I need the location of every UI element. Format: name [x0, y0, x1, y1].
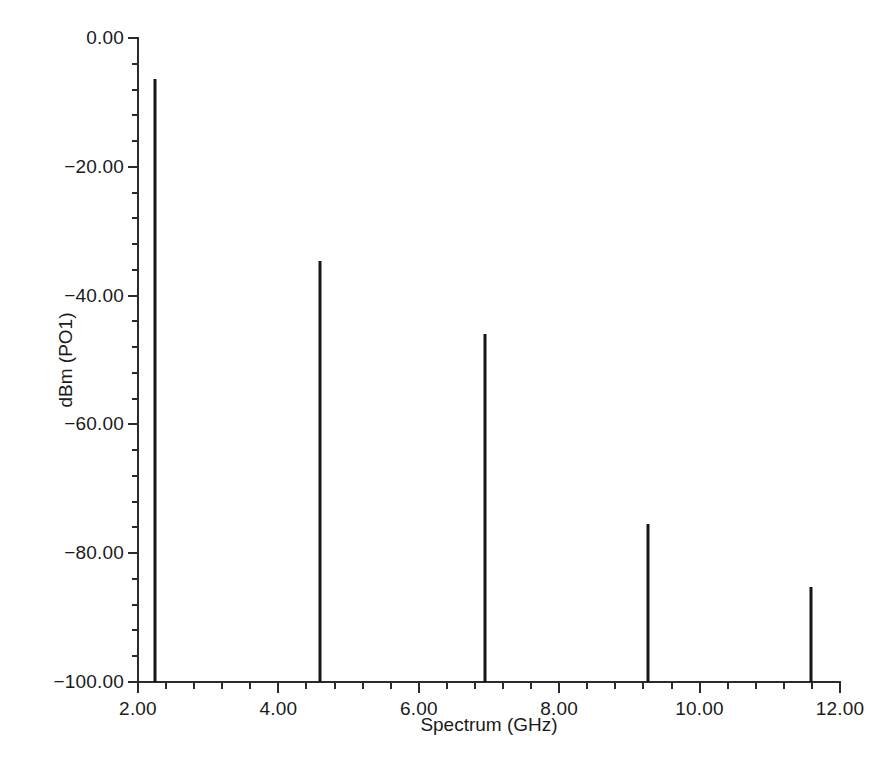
x-tick-major [137, 682, 139, 693]
y-tick-label: −100.00 [53, 671, 124, 693]
x-tick-major [699, 682, 701, 693]
y-tick-minor [132, 449, 138, 451]
y-tick-minor [132, 192, 138, 194]
x-tick-minor [530, 682, 532, 689]
y-axis-title: dBm (PO1) [55, 312, 77, 407]
x-tick-minor [671, 682, 673, 689]
x-tick-minor [305, 682, 307, 689]
x-tick-minor [811, 682, 813, 689]
y-tick-minor [132, 243, 138, 245]
y-tick-minor [132, 89, 138, 91]
y-tick-major [128, 37, 138, 39]
y-tick-minor [132, 398, 138, 400]
x-axis-title: Spectrum (GHz) [138, 714, 840, 736]
spectrum-plot-figure: 0.00−20.00−40.00−60.00−80.00−100.00 2.00… [0, 0, 893, 766]
spectrum-peak [483, 334, 486, 682]
x-tick-minor [362, 682, 364, 689]
x-tick-major [418, 682, 420, 693]
x-tick-minor [221, 682, 223, 689]
y-tick-minor [132, 372, 138, 374]
y-tick-minor [132, 526, 138, 528]
plot-area: 0.00−20.00−40.00−60.00−80.00−100.00 [138, 38, 840, 682]
y-tick-minor [132, 346, 138, 348]
x-tick-minor [474, 682, 476, 689]
x-tick-major [277, 682, 279, 693]
y-tick-label: −60.00 [64, 413, 124, 435]
x-tick-minor [783, 682, 785, 689]
y-tick-major [128, 552, 138, 554]
x-tick-minor [642, 682, 644, 689]
x-tick-minor [755, 682, 757, 689]
y-tick-minor [132, 140, 138, 142]
x-tick-minor [165, 682, 167, 689]
spectrum-peak [318, 261, 321, 682]
y-tick-minor [132, 604, 138, 606]
y-tick-minor [132, 578, 138, 580]
x-tick-minor [249, 682, 251, 689]
x-tick-minor [334, 682, 336, 689]
y-tick-minor [132, 320, 138, 322]
y-tick-minor [132, 501, 138, 503]
spectrum-peak [809, 587, 812, 682]
x-tick-major [839, 682, 841, 693]
x-tick-minor [502, 682, 504, 689]
y-tick-major [128, 166, 138, 168]
y-tick-minor [132, 655, 138, 657]
y-tick-minor [132, 475, 138, 477]
y-tick-label: −20.00 [64, 156, 124, 178]
y-tick-minor [132, 269, 138, 271]
x-tick-minor [727, 682, 729, 689]
y-tick-label: −80.00 [64, 542, 124, 564]
y-tick-label: 0.00 [86, 27, 124, 49]
x-tick-major [558, 682, 560, 693]
y-tick-major [128, 423, 138, 425]
y-tick-minor [132, 217, 138, 219]
x-tick-minor [193, 682, 195, 689]
x-tick-minor [390, 682, 392, 689]
y-tick-major [128, 295, 138, 297]
x-tick-group: 2.004.006.008.0010.0012.00 [138, 682, 840, 683]
y-tick-label: −40.00 [64, 285, 124, 307]
spectrum-peak [647, 524, 650, 682]
x-tick-minor [586, 682, 588, 689]
y-tick-minor [132, 63, 138, 65]
y-tick-minor [132, 114, 138, 116]
spectrum-peak [153, 79, 156, 682]
y-tick-minor [132, 629, 138, 631]
x-tick-minor [446, 682, 448, 689]
x-tick-minor [614, 682, 616, 689]
